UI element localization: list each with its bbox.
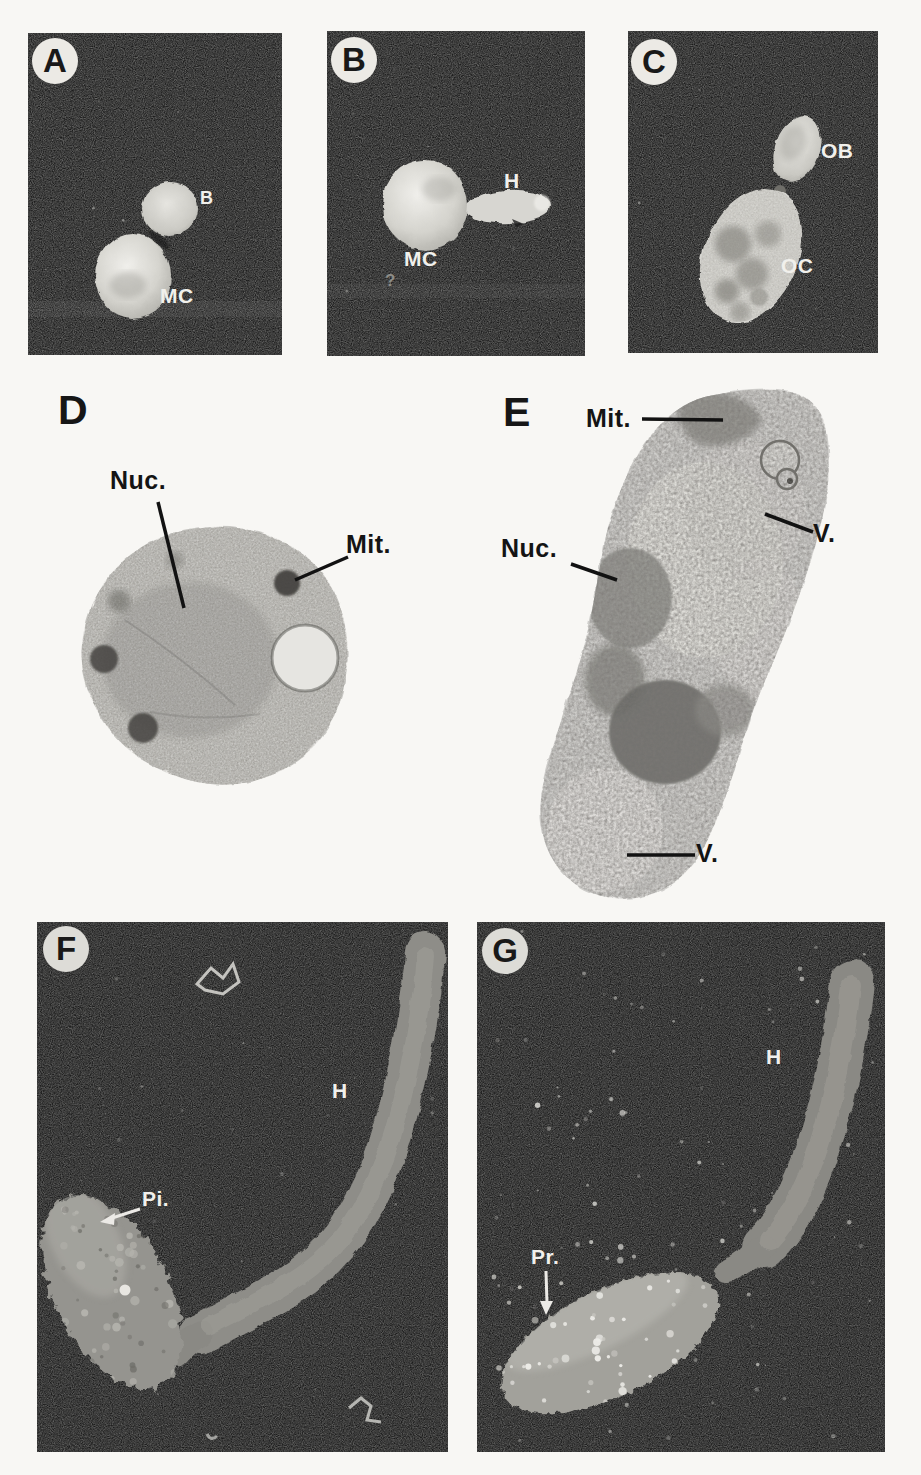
panel-a-badge: A (32, 38, 78, 84)
panel-f-micrograph (37, 922, 448, 1452)
label-pimples: Pi. (142, 1188, 169, 1209)
panel-c-badge: C (631, 39, 677, 85)
label-protuberances: Pr. (531, 1246, 559, 1267)
label-mother-cell-b: MC (404, 248, 438, 269)
panel-a: A B MC (28, 33, 282, 355)
label-mitochondrion-e: Mit. (586, 406, 631, 431)
label-oval-bud: OB (821, 140, 854, 161)
panel-g: G Pr. H (477, 922, 885, 1452)
label-nucleus-d: Nuc. (110, 468, 166, 493)
label-bud: B (200, 189, 214, 207)
panel-a-micrograph (28, 33, 282, 355)
panel-d-micrograph (55, 460, 360, 800)
label-hypha-b: H (504, 170, 520, 191)
label-mother-cell-a: MC (160, 285, 194, 306)
mitochondrion-d (274, 570, 300, 596)
label-vacuole-upper-e: V. (813, 521, 835, 546)
bud-cell-a (142, 182, 198, 236)
label-oval-cell: OC (781, 255, 814, 276)
panel-f-badge: F (43, 926, 89, 972)
panel-e-micrograph (490, 380, 850, 910)
label-nucleus-e: Nuc. (501, 536, 557, 561)
panel-b-badge-letter: B (342, 41, 366, 79)
label-vacuole-lower-e: V. (696, 841, 718, 866)
panel-f-badge-letter: F (56, 930, 76, 968)
panel-letter-d: D (58, 390, 88, 431)
pointer-line-mitochondrion-e (642, 419, 723, 420)
debris-question-mark: ? (385, 271, 395, 291)
panel-g-micrograph (477, 922, 885, 1452)
panel-g-badge: G (482, 928, 528, 974)
label-hypha-f: H (332, 1080, 348, 1101)
panel-a-badge-letter: A (43, 42, 67, 80)
label-hypha-g: H (766, 1046, 782, 1067)
panel-f: F Pi. H (37, 922, 448, 1452)
mother-cell-b (382, 160, 468, 250)
panel-c-badge-letter: C (642, 43, 666, 81)
label-mitochondrion-d: Mit. (346, 532, 391, 557)
panel-g-badge-letter: G (492, 932, 518, 970)
panel-letter-e: E (503, 392, 530, 433)
panel-c: C OB OC (628, 31, 878, 353)
panel-b-badge: B (331, 37, 377, 83)
panel-b: B H MC ? (327, 31, 585, 356)
figure-page: A B MC B H MC ? (0, 0, 921, 1475)
